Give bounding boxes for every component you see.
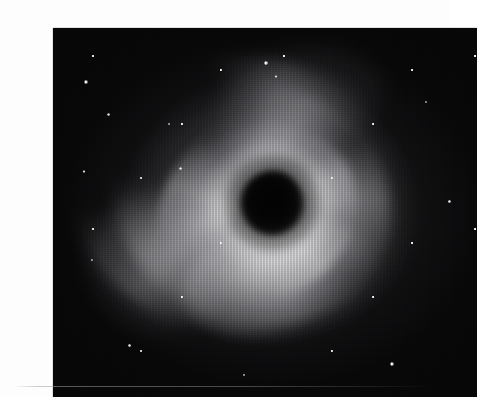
page-rule <box>14 386 435 387</box>
star-inner-north-icon <box>179 167 182 170</box>
star-left-upper-icon <box>107 113 110 116</box>
astronomical-plate: Spiral Nebula Photographic Plate <box>53 28 477 397</box>
star-bottom-center-icon <box>243 374 245 376</box>
star-right-mid-icon <box>448 200 450 202</box>
star-top-center-icon <box>264 61 268 65</box>
dark-core <box>241 171 303 235</box>
star-bottom-left-icon <box>128 344 131 347</box>
star-left-mid-icon <box>83 170 86 173</box>
